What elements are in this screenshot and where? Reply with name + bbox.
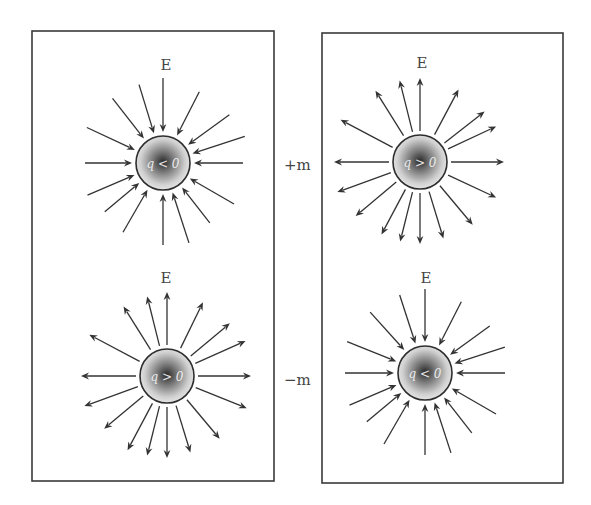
arrow-icon (176, 406, 191, 453)
side-label-minus-m: −m (284, 371, 311, 389)
arrow-icon (188, 115, 229, 145)
arrow-icon (194, 160, 243, 167)
arrow-icon (105, 183, 139, 212)
arrow-icon (160, 194, 167, 245)
arrow-icon (434, 402, 451, 452)
panel-box-right (322, 33, 563, 483)
arrow-icon (160, 78, 167, 132)
arrow-icon (198, 373, 251, 380)
arrow-icon (334, 159, 389, 166)
arrow-icon (124, 306, 151, 349)
arrow-icon (164, 407, 171, 458)
arrow-icon (384, 400, 410, 444)
electric-field-diagram: +m −m Eq < 0Eq > 0Eq > 0Eq < 0 (0, 0, 591, 505)
arrow-icon (128, 403, 153, 450)
charge-top-right: Eq > 0 (334, 54, 504, 244)
arrow-icon (439, 302, 461, 346)
arrow-icon (192, 136, 244, 154)
arrow-icon (85, 160, 132, 167)
field-label-e: E (417, 54, 428, 72)
arrow-icon (417, 193, 424, 244)
arrow-icon (187, 400, 220, 439)
arrow-icon (347, 342, 396, 362)
arrow-icon (190, 179, 234, 205)
arrow-icon (146, 296, 160, 345)
arrow-icon (399, 192, 413, 241)
arrow-icon (164, 292, 171, 345)
arrow-icon (448, 175, 496, 197)
arrow-icon (196, 388, 247, 409)
arrow-icon (337, 173, 391, 193)
field-label-e: E (161, 269, 172, 287)
panel-box-left (32, 31, 274, 481)
arrow-icon (195, 341, 245, 363)
arrow-icon (440, 186, 473, 225)
charge-sign-label: q < 0 (409, 367, 442, 381)
arrow-icon (382, 189, 406, 234)
arrow-icon (429, 192, 444, 239)
charge-sign-label: q < 0 (147, 157, 180, 171)
panel-boxes (32, 31, 563, 483)
arrow-icon (104, 396, 143, 429)
arrow-icon (177, 92, 199, 136)
arrow-icon (89, 335, 139, 362)
arrow-icon (181, 302, 203, 348)
arrow-icon (417, 78, 424, 131)
arrow-icon (146, 406, 160, 455)
arrow-icon (422, 404, 429, 455)
charge-bottom-left: Eq > 0 (81, 269, 251, 458)
arrow-icon (398, 80, 412, 131)
charge-sign-label: q > 0 (404, 156, 437, 170)
arrow-icon (182, 187, 210, 222)
arrow-icon (370, 312, 404, 350)
side-label-plus-m: +m (284, 156, 311, 174)
arrow-icon (422, 289, 429, 342)
arrow-icon (172, 192, 189, 242)
arrow-icon (356, 182, 397, 216)
arrow-icon (123, 190, 148, 232)
charge-top-left: Eq < 0 (85, 56, 245, 245)
field-label-e: E (161, 56, 172, 74)
arrow-icon (367, 393, 401, 422)
arrow-icon (454, 347, 504, 364)
arrow-icon (456, 370, 505, 377)
arrow-icon (345, 370, 394, 377)
charge-sign-label: q > 0 (151, 370, 184, 384)
arrow-icon (81, 373, 136, 380)
arrow-icon (400, 295, 417, 344)
arrow-icon (341, 120, 393, 148)
arrow-icon (375, 91, 403, 136)
arrow-icon (113, 98, 144, 138)
arrow-icon (84, 387, 138, 407)
arrow-icon (444, 397, 472, 432)
arrow-icon (452, 389, 496, 415)
arrow-icon (448, 127, 496, 149)
charge-bottom-right: Eq < 0 (345, 269, 505, 455)
arrow-icon (444, 112, 484, 143)
arrow-icon (435, 90, 459, 135)
arrow-icon (87, 128, 135, 150)
field-label-e: E (421, 269, 432, 287)
arrow-icon (139, 85, 155, 134)
charges: Eq < 0Eq > 0Eq > 0Eq < 0 (81, 54, 505, 458)
arrow-icon (450, 326, 490, 355)
arrow-icon (451, 159, 504, 166)
